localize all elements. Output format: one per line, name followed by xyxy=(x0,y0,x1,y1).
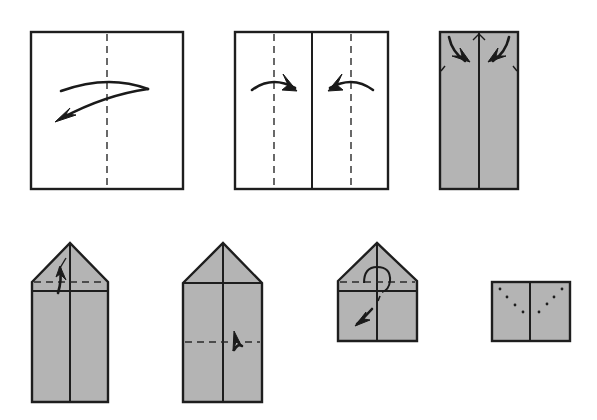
step-7 xyxy=(492,282,570,341)
step-3 xyxy=(440,32,518,189)
step-4 xyxy=(32,243,108,402)
origami-diagram xyxy=(0,0,597,420)
step-6 xyxy=(338,243,417,341)
step-1 xyxy=(31,32,183,189)
step-5 xyxy=(183,243,262,402)
step-2 xyxy=(235,32,388,189)
